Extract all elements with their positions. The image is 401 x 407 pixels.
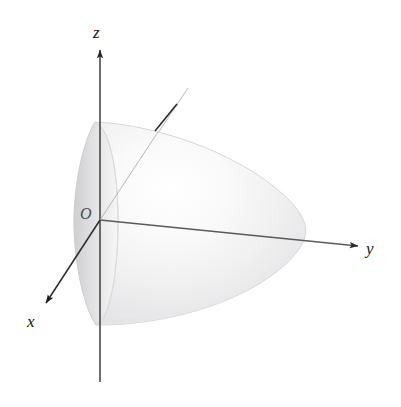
- paraboloid-surface: [74, 122, 306, 325]
- y-axis-label: y: [366, 240, 374, 257]
- x-axis-label: x: [27, 313, 35, 330]
- figure-canvas: [0, 0, 401, 407]
- origin-label: O: [80, 206, 92, 222]
- leader-line: [155, 104, 177, 131]
- figure-3d-paraboloid: z y x O: [0, 0, 401, 407]
- z-axis-label: z: [93, 24, 100, 41]
